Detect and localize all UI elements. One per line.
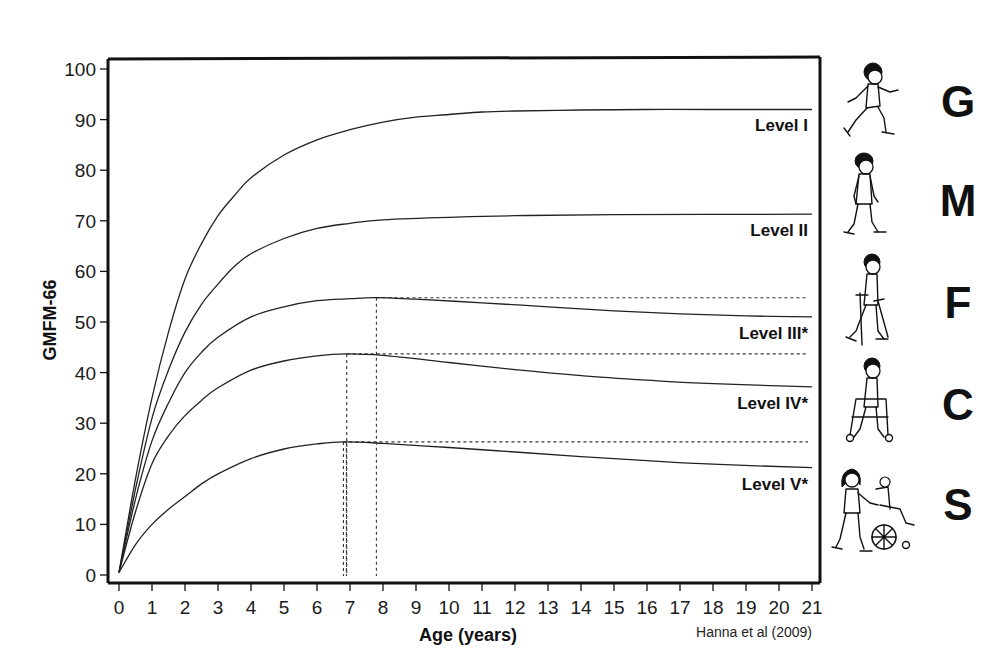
level-label: Level I (755, 116, 808, 135)
x-tick-label: 14 (570, 597, 592, 618)
curve-level-iii (119, 298, 812, 573)
level-labels: Level ILevel IILevel III*Level IV*Level … (737, 116, 808, 493)
level-label: Level IV* (737, 394, 808, 413)
y-axis: 0102030405060708090100 (64, 59, 108, 586)
gmfcs-letter-f: F (945, 278, 972, 327)
x-axis-title: Age (years) (419, 625, 517, 645)
child-crutches-icon (846, 254, 888, 345)
y-tick-label: 0 (85, 565, 96, 586)
y-tick-label: 80 (75, 160, 96, 181)
gmfcs-letter-m: M (940, 176, 977, 225)
curve-level-iv (119, 354, 812, 573)
level-label: Level III* (739, 324, 808, 343)
y-tick-label: 40 (75, 363, 96, 384)
curves (119, 109, 812, 572)
x-tick-label: 3 (213, 597, 224, 618)
y-tick-label: 50 (75, 312, 96, 333)
x-tick-label: 19 (735, 597, 756, 618)
x-tick-label: 8 (378, 597, 389, 618)
x-tick-label: 7 (345, 597, 356, 618)
x-tick-label: 0 (114, 597, 125, 618)
child-walking-icon (844, 153, 886, 234)
x-tick-label: 4 (246, 597, 257, 618)
y-tick-label: 20 (75, 464, 96, 485)
x-tick-label: 10 (438, 597, 459, 618)
x-tick-label: 13 (537, 597, 558, 618)
y-tick-label: 90 (75, 110, 96, 131)
curve-level-i (119, 109, 812, 572)
x-tick-label: 20 (768, 597, 789, 618)
citation: Hanna et al (2009) (696, 624, 812, 640)
x-tick-label: 16 (636, 597, 657, 618)
x-axis: 0123456789101112131415161718192021 (114, 583, 823, 618)
x-tick-label: 15 (603, 597, 624, 618)
x-tick-label: 21 (801, 597, 822, 618)
x-tick-label: 11 (472, 597, 492, 618)
gmfcs-letter-s: S (943, 480, 972, 529)
x-tick-label: 6 (312, 597, 323, 618)
y-tick-label: 30 (75, 413, 96, 434)
plot-frame (108, 57, 820, 583)
wheelchair-pushed-icon (832, 469, 914, 551)
y-axis-title: GMFM-66 (40, 280, 60, 361)
x-tick-label: 1 (147, 597, 158, 618)
x-tick-label: 5 (279, 597, 290, 618)
level-label: Level II (750, 221, 808, 240)
child-running-icon (844, 63, 898, 136)
y-tick-label: 60 (75, 261, 96, 282)
x-tick-label: 2 (180, 597, 191, 618)
gmfcs-letter-c: C (942, 380, 974, 429)
x-tick-label: 9 (411, 597, 422, 618)
level-label: Level V* (742, 475, 809, 494)
x-tick-label: 18 (702, 597, 723, 618)
gmfm-chart: 0102030405060708090100 01234567891011121… (0, 0, 1002, 671)
y-tick-label: 10 (75, 514, 96, 535)
child-walker-icon (847, 358, 893, 442)
x-tick-label: 17 (669, 597, 690, 618)
y-tick-label: 70 (75, 211, 96, 232)
curve-level-ii (119, 214, 812, 572)
curve-level-v (119, 442, 812, 573)
gmfcs-letter-g: G (941, 77, 975, 126)
x-tick-label: 12 (504, 597, 525, 618)
y-tick-label: 100 (64, 59, 96, 80)
